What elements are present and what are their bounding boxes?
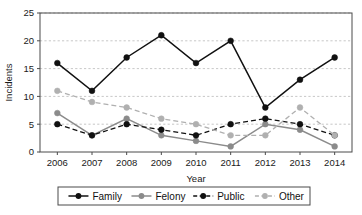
- x-tick-label-2011: 2011: [220, 157, 240, 168]
- legend-label-family: Family: [92, 191, 121, 202]
- y-axis-title: Incidents: [3, 63, 14, 101]
- data-point-public-2007: [89, 132, 95, 138]
- data-point-family-2007: [89, 88, 95, 94]
- data-point-other-2008: [124, 105, 130, 111]
- data-point-family-2008: [124, 55, 130, 61]
- line-chart: 0510152025200620072008200920102011201220…: [0, 0, 362, 215]
- x-tick-label-2008: 2008: [116, 157, 137, 168]
- data-point-felony-2008: [124, 116, 130, 122]
- data-point-felony-2013: [297, 127, 303, 133]
- legend-marker-felony: [139, 193, 145, 199]
- data-point-public-2013: [297, 121, 303, 127]
- data-point-felony-2009: [158, 132, 164, 138]
- legend-marker-public: [200, 193, 206, 199]
- legend-label-other: Other: [279, 191, 305, 202]
- x-tick-label-2014: 2014: [324, 157, 345, 168]
- data-point-public-2009: [158, 127, 164, 133]
- x-tick-label-2007: 2007: [81, 157, 102, 168]
- data-point-family-2014: [332, 55, 338, 61]
- data-point-other-2006: [54, 88, 60, 94]
- data-point-public-2006: [54, 121, 60, 127]
- chart-canvas: 0510152025200620072008200920102011201220…: [0, 0, 362, 215]
- data-point-public-2010: [193, 132, 199, 138]
- data-point-felony-2011: [228, 144, 234, 150]
- data-point-other-2011: [228, 132, 234, 138]
- legend-label-felony: Felony: [155, 191, 185, 202]
- data-point-family-2006: [54, 60, 60, 66]
- x-tick-label-2012: 2012: [255, 157, 276, 168]
- data-point-family-2011: [228, 38, 234, 44]
- data-point-family-2009: [158, 32, 164, 38]
- data-point-other-2013: [297, 105, 303, 111]
- data-point-felony-2014: [332, 144, 338, 150]
- data-point-public-2008: [124, 121, 130, 127]
- data-point-public-2012: [262, 116, 268, 122]
- data-point-other-2014: [332, 132, 338, 138]
- x-tick-label-2006: 2006: [47, 157, 68, 168]
- y-tick-label-10: 10: [23, 91, 34, 102]
- data-point-other-2007: [89, 99, 95, 105]
- data-point-other-2009: [158, 116, 164, 122]
- y-tick-label-5: 5: [29, 119, 34, 130]
- data-point-family-2010: [193, 60, 199, 66]
- data-point-public-2011: [228, 121, 234, 127]
- legend-marker-other: [262, 193, 268, 199]
- x-tick-label-2013: 2013: [289, 157, 310, 168]
- y-tick-label-15: 15: [23, 63, 34, 74]
- data-point-felony-2006: [54, 110, 60, 116]
- y-tick-label-20: 20: [23, 35, 34, 46]
- legend-label-public: Public: [217, 191, 244, 202]
- x-tick-label-2010: 2010: [185, 157, 206, 168]
- y-tick-label-0: 0: [29, 146, 34, 157]
- data-point-other-2010: [193, 121, 199, 127]
- data-point-family-2013: [297, 77, 303, 83]
- x-tick-label-2009: 2009: [151, 157, 172, 168]
- data-point-family-2012: [262, 105, 268, 111]
- data-point-other-2012: [262, 132, 268, 138]
- data-point-felony-2012: [262, 121, 268, 127]
- data-point-felony-2010: [193, 138, 199, 144]
- y-tick-label-25: 25: [23, 7, 34, 18]
- x-axis-title: Year: [186, 173, 205, 184]
- legend-marker-family: [76, 193, 82, 199]
